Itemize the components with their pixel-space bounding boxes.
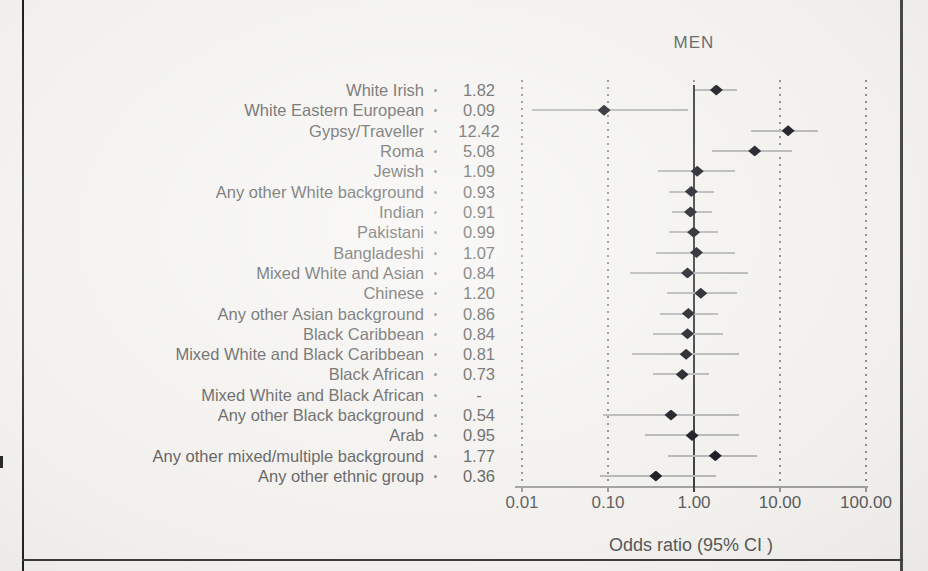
category-label: Mixed White and Asian (0, 263, 424, 283)
category-label: Mixed White and Black African (0, 385, 424, 405)
x-tick-label: 0.01 (482, 493, 562, 513)
or-value-label: 0.73 (432, 364, 526, 384)
gridline-100.00 (865, 80, 867, 486)
or-marker (748, 145, 761, 156)
category-label: White Irish (0, 80, 424, 100)
or-value-label: 1.07 (432, 243, 526, 263)
or-marker (782, 125, 795, 136)
or-marker (694, 288, 707, 299)
category-label: Black African (0, 364, 424, 384)
or-marker (676, 369, 689, 380)
category-label: Any other White background (0, 182, 424, 202)
or-value-label: 0.81 (432, 344, 526, 364)
or-value-label: 0.95 (432, 425, 526, 445)
or-value-label: 1.09 (432, 161, 526, 181)
or-marker (686, 430, 699, 441)
category-label: Any other ethnic group (0, 466, 424, 486)
plot-area: 0.010.101.0010.00100.00White Irish1.82Wh… (0, 0, 928, 571)
category-label: Any other Black background (0, 405, 424, 425)
category-label: Jewish (0, 161, 424, 181)
category-label: Black Caribbean (0, 324, 424, 344)
category-label: Roma (0, 141, 424, 161)
or-value-label: - (432, 385, 526, 405)
or-value-label: 0.91 (432, 202, 526, 222)
category-label: Any other mixed/multiple background (0, 446, 424, 466)
category-label: White Eastern European (0, 100, 424, 120)
or-value-label: 1.20 (432, 283, 526, 303)
x-tick-label: 100.00 (826, 493, 906, 513)
gridline-0.10 (607, 80, 609, 486)
or-marker (709, 450, 722, 461)
x-tick-label: 1.00 (654, 493, 734, 513)
category-label: Any other Asian background (0, 304, 424, 324)
or-marker (710, 85, 723, 96)
or-marker (664, 410, 677, 421)
or-value-label: 5.08 (432, 141, 526, 161)
or-value-label: 0.99 (432, 222, 526, 242)
or-marker (687, 227, 700, 238)
or-value-label: 0.54 (432, 405, 526, 425)
category-label: Mixed White and Black Caribbean (0, 344, 424, 364)
category-label: Gypsy/Traveller (0, 121, 424, 141)
or-marker (649, 471, 662, 482)
reference-line (693, 85, 695, 492)
or-marker (680, 349, 693, 360)
or-value-label: 0.93 (432, 182, 526, 202)
or-value-label: 1.77 (432, 446, 526, 466)
x-tick-label: 0.10 (568, 493, 648, 513)
category-label: Chinese (0, 283, 424, 303)
category-label: Pakistani (0, 222, 424, 242)
gridline-10.00 (779, 80, 781, 486)
or-marker (684, 206, 697, 217)
or-value-label: 0.84 (432, 324, 526, 344)
or-value-label: 1.82 (432, 80, 526, 100)
x-axis-label: Odds ratio (95% CI ) (541, 533, 841, 557)
or-value-label: 12.42 (432, 121, 526, 141)
or-value-label: 0.36 (432, 466, 526, 486)
or-marker (685, 186, 698, 197)
or-value-label: 0.84 (432, 263, 526, 283)
x-axis-line (515, 486, 868, 488)
or-value-label: 0.86 (432, 304, 526, 324)
forest-plot-figure: MEN 0.010.101.0010.00100.00White Irish1.… (0, 0, 928, 571)
category-label: Indian (0, 202, 424, 222)
category-label: Arab (0, 425, 424, 445)
or-value-label: 0.09 (432, 100, 526, 120)
x-tick-label: 10.00 (740, 493, 820, 513)
or-marker (690, 247, 703, 258)
category-label: Bangladeshi (0, 243, 424, 263)
